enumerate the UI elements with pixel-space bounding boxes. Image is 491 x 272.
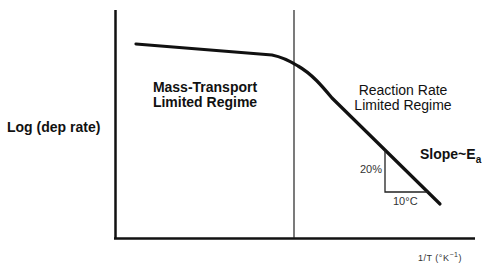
slope-label-text: Slope~E <box>420 146 476 162</box>
mass-transport-line2: Limited Regime <box>140 95 270 110</box>
mass-transport-line1: Mass-Transport <box>140 80 270 95</box>
deposition-rate-curve <box>136 44 440 204</box>
reaction-rate-line1: Reaction Rate <box>349 83 457 98</box>
triangle-horizontal-label: 10°C <box>393 195 418 207</box>
x-axis-label-text: 1/T (°K <box>418 253 449 263</box>
slope-label-subscript: a <box>476 154 482 165</box>
reaction-rate-regime-label: Reaction Rate Limited Regime <box>349 83 457 114</box>
x-axis-label: 1/T (°K−1) <box>418 251 462 264</box>
diagram-canvas <box>0 0 491 272</box>
mass-transport-regime-label: Mass-Transport Limited Regime <box>140 80 270 111</box>
y-axis-label: Log (dep rate) <box>7 120 100 135</box>
slope-label: Slope~Ea <box>420 147 481 165</box>
x-axis-label-close: ) <box>458 253 462 263</box>
triangle-vertical-label: 20% <box>360 163 382 175</box>
reaction-rate-line2: Limited Regime <box>349 98 457 113</box>
